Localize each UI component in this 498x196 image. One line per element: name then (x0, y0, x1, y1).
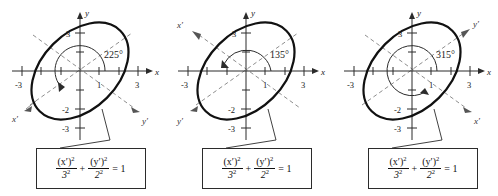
y-prime-label-135: y′ (176, 116, 184, 126)
angle-label-135: 135° (270, 49, 289, 60)
x-den-exp-315: 2 (399, 167, 402, 174)
y-tick-3-315: 3 (398, 29, 402, 39)
y-numerator-315: (y′) (422, 156, 436, 167)
y-num-exp-225: 2 (104, 155, 107, 162)
x-fraction-225: (x′)2 32 (56, 157, 77, 180)
x-prime-arrow-135 (192, 31, 201, 40)
plus-sign-135: + (246, 163, 252, 174)
y-tick-3-135: 3 (232, 29, 236, 39)
y-axis-label-225: y (84, 8, 89, 18)
panel-135-graph: x y x′ y′ -3 1 3 3 -2 -3 135° (166, 0, 332, 150)
y-tick-neg3-315: -3 (394, 124, 401, 134)
x-axis-label-135: x (320, 67, 325, 77)
x-numerator-135: (x′) (224, 156, 238, 167)
x-den-exp-225: 2 (67, 167, 70, 174)
x-tick-neg3-225: -3 (15, 80, 22, 90)
panel-135: x y x′ y′ -3 1 3 3 -2 -3 135° (x′)2 32 +… (166, 0, 332, 196)
y-fraction-315: (y′)2 22 (420, 157, 441, 180)
y-den-exp-225: 2 (100, 167, 103, 174)
equation-box-225: (x′)2 32 + (y′)2 22 = 1 (36, 148, 146, 189)
plus-sign-315: + (412, 163, 418, 174)
y-prime-arrow-315 (461, 29, 470, 38)
plus-sign-225: + (80, 163, 86, 174)
x-num-exp-225: 2 (71, 155, 74, 162)
y-numerator-225: (y′) (90, 156, 104, 167)
x-fraction-135: (x′)2 32 (222, 157, 243, 180)
x-numerator-315: (x′) (390, 156, 404, 167)
y-tick-neg3-135: -3 (228, 124, 235, 134)
y-prime-arrow-135 (190, 106, 198, 112)
equation-135: (x′)2 32 + (y′)2 22 = 1 (221, 157, 294, 180)
x-prime-label-225: x′ (11, 114, 19, 124)
x-prime-label-135: x′ (176, 20, 184, 30)
y-num-exp-315: 2 (436, 155, 439, 162)
y-den-exp-135: 2 (266, 167, 269, 174)
panel-315: x y y′ x′ -3 1 3 3 -2 -3 315° (x′)2 32 +… (332, 0, 498, 196)
y-tick-3-225: 3 (66, 29, 70, 39)
y-tick-neg2-315: -2 (394, 105, 401, 115)
x-fraction-315: (x′)2 32 (388, 157, 409, 180)
x-prime-arrow-315 (463, 107, 472, 113)
panel-225-graph: x y x′ y′ -3 1 3 3 -2 -3 225° (0, 0, 166, 150)
x-den-exp-135: 2 (233, 167, 236, 174)
y-num-exp-135: 2 (270, 155, 273, 162)
equation-315: (x′)2 32 + (y′)2 22 = 1 (387, 157, 460, 180)
x-tick-3-135: 3 (301, 80, 305, 90)
x-tick-neg3-135: -3 (181, 80, 188, 90)
x-tick-3-315: 3 (467, 80, 471, 90)
y-numerator-135: (y′) (256, 156, 270, 167)
equation-box-135: (x′)2 32 + (y′)2 22 = 1 (202, 148, 312, 189)
y-tick-neg2-225: -2 (62, 105, 69, 115)
x-num-exp-315: 2 (403, 155, 406, 162)
y-prime-label-225: y′ (141, 116, 149, 126)
x-tick-neg3-315: -3 (347, 80, 354, 90)
x-axis-label-225: x (154, 67, 159, 77)
equals-315: = 1 (444, 163, 457, 174)
y-tick-neg3-225: -3 (62, 124, 69, 134)
x-tick-1-225: 1 (97, 80, 101, 90)
y-fraction-135: (y′)2 22 (254, 157, 275, 180)
x-tick-3-225: 3 (135, 80, 139, 90)
panel-225: x y x′ y′ -3 1 3 3 -2 -3 225° (x′)2 32 +… (0, 0, 166, 196)
figure-container: x y x′ y′ -3 1 3 3 -2 -3 225° (x′)2 32 +… (0, 0, 498, 196)
y-fraction-225: (y′)2 22 (88, 157, 109, 180)
y-axis-label-315: y (416, 8, 421, 18)
x-tick-1-135: 1 (263, 80, 267, 90)
y-axis-label-135: y (250, 8, 255, 18)
equals-225: = 1 (112, 163, 125, 174)
panel-315-graph: x y y′ x′ -3 1 3 3 -2 -3 315° (332, 0, 498, 150)
equation-225: (x′)2 32 + (y′)2 22 = 1 (55, 157, 128, 180)
x-axis-label-315: x (486, 67, 491, 77)
equals-135: = 1 (278, 163, 291, 174)
x-tick-1-315: 1 (429, 80, 433, 90)
y-prime-label-315: y′ (472, 19, 480, 29)
y-prime-arrow-225 (131, 107, 140, 113)
angle-label-315: 315° (436, 49, 455, 60)
angle-label-225: 225° (104, 49, 123, 60)
x-num-exp-135: 2 (237, 155, 240, 162)
equation-box-315: (x′)2 32 + (y′)2 22 = 1 (368, 148, 478, 189)
y-den-exp-315: 2 (432, 167, 435, 174)
y-tick-neg2-135: -2 (228, 105, 235, 115)
x-numerator-225: (x′) (58, 156, 72, 167)
x-prime-label-315: x′ (473, 116, 481, 126)
